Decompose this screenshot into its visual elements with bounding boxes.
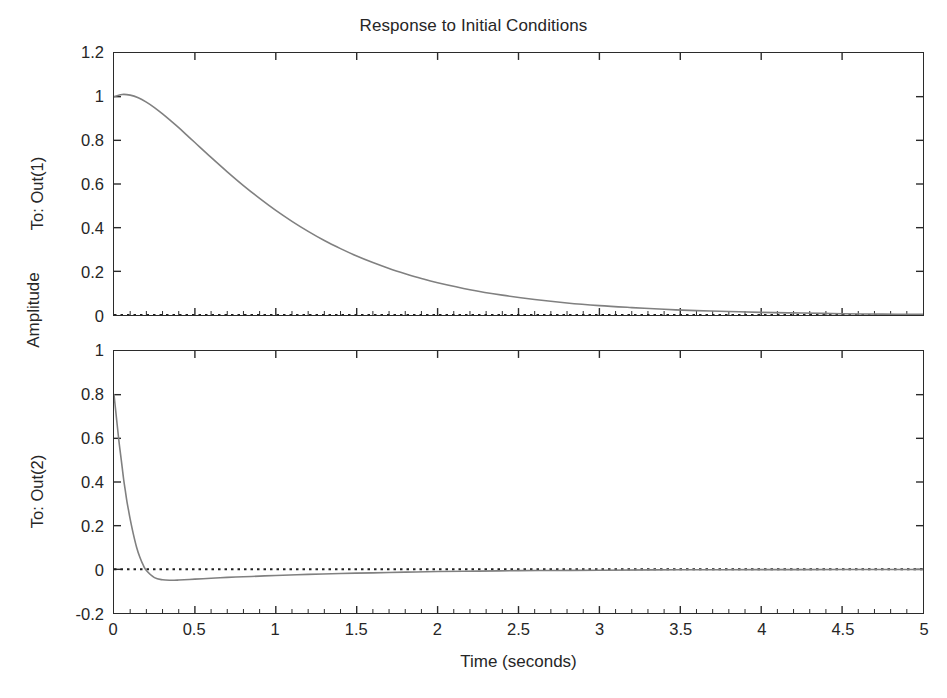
subplot-1-axes xyxy=(113,52,924,316)
data-line xyxy=(114,395,923,581)
x-tick-label: 1.5 xyxy=(345,620,368,639)
y-tick-label: 1 xyxy=(44,87,104,106)
subplot-2-ytick-labels: -0.200.20.40.60.81 xyxy=(0,350,104,614)
y-tick-label: 0.8 xyxy=(44,385,104,404)
x-tick-label: 0.5 xyxy=(183,620,206,639)
x-tick-label: 4.5 xyxy=(831,620,854,639)
x-axis-label: Time (seconds) xyxy=(113,652,924,672)
x-tick-label: 3.5 xyxy=(669,620,692,639)
x-tick-label: 4 xyxy=(757,620,766,639)
subplot-2-y-axis-label: To: Out(2) xyxy=(28,417,47,567)
x-tick-label: 5 xyxy=(919,620,928,639)
page-title: Response to Initial Conditions xyxy=(0,16,947,36)
y-tick-label: 0 xyxy=(44,561,104,580)
y-tick-label: -0.2 xyxy=(44,605,104,624)
subplot-2-plot-area xyxy=(114,351,923,613)
y-tick-label: 0.6 xyxy=(44,429,104,448)
data-line xyxy=(114,94,923,314)
x-tick-label: 3 xyxy=(595,620,604,639)
x-tick-label: 2 xyxy=(433,620,442,639)
y-tick-label: 0.8 xyxy=(44,131,104,150)
subplot-2-axes xyxy=(113,350,924,614)
x-tick-label: 1 xyxy=(271,620,280,639)
y-tick-label: 0.4 xyxy=(44,473,104,492)
matlab-figure-canvas: Response to Initial Conditions Amplitude… xyxy=(0,0,947,698)
subplot-1-ytick-labels: 00.20.40.60.811.2 xyxy=(0,52,104,316)
y-tick-label: 0.6 xyxy=(44,175,104,194)
y-tick-label: 1.2 xyxy=(44,43,104,62)
x-tick-label: 2.5 xyxy=(507,620,530,639)
x-tick-label: 0 xyxy=(108,620,117,639)
subplot-1-plot-area xyxy=(114,53,923,315)
y-tick-label: 1 xyxy=(44,341,104,360)
y-tick-label: 0.2 xyxy=(44,263,104,282)
y-tick-label: 0.2 xyxy=(44,517,104,536)
y-tick-label: 0.4 xyxy=(44,219,104,238)
subplot-1-y-axis-label: To: Out(1) xyxy=(28,119,47,269)
y-tick-label: 0 xyxy=(44,307,104,326)
